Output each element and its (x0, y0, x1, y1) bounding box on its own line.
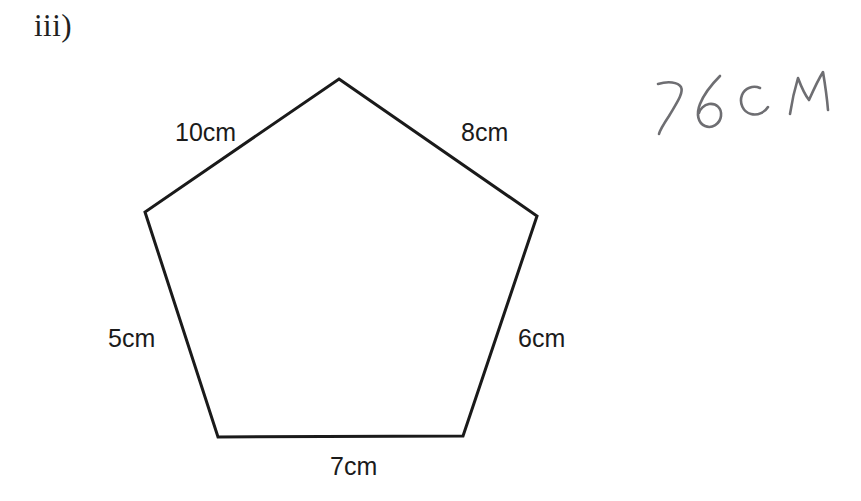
handwritten-answer-36cm (648, 58, 838, 140)
side-label-top-right: 8cm (461, 118, 508, 147)
side-label-bottom: 7cm (330, 452, 377, 481)
side-label-right: 6cm (518, 324, 565, 353)
worksheet-page: iii) 10cm 8cm 5cm 6cm 7cm (0, 0, 861, 501)
side-label-left: 5cm (108, 324, 155, 353)
side-label-top-left: 10cm (175, 118, 236, 147)
